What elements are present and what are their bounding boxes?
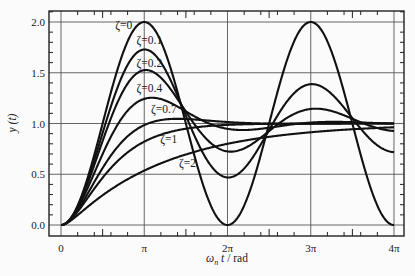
- x-tick-label: 3π: [305, 242, 317, 254]
- curve-label: ζ=0.7: [151, 103, 177, 116]
- y-tick-label: 0.0: [31, 219, 45, 231]
- curve-label: ζ=0.2: [137, 57, 163, 70]
- x-tick-label: 0: [58, 242, 64, 254]
- curve-label: ζ=1: [160, 133, 177, 146]
- y-tick-label: 1.5: [31, 67, 45, 79]
- curve-label: ζ=0: [115, 19, 132, 32]
- curve-label: ζ=0.1: [137, 34, 163, 47]
- tick-labels: 0π2π3π4π0.00.51.01.52.0: [31, 16, 400, 254]
- step-response-chart: 0π2π3π4π0.00.51.01.52.0 ζ=0ζ=0.1ζ=0.2ζ=0…: [0, 0, 415, 276]
- y-tick-label: 1.0: [31, 118, 45, 130]
- y-tick-label: 0.5: [31, 168, 45, 180]
- x-axis-label: ωn t / rad: [206, 252, 248, 267]
- curve-label: ζ=0.4: [137, 82, 163, 95]
- y-axis-label: y (t): [6, 113, 19, 133]
- y-tick-label: 2.0: [31, 16, 45, 28]
- curve-label: ζ=2: [179, 157, 196, 170]
- x-tick-label: π: [141, 242, 147, 254]
- x-tick-label: 4π: [388, 242, 400, 254]
